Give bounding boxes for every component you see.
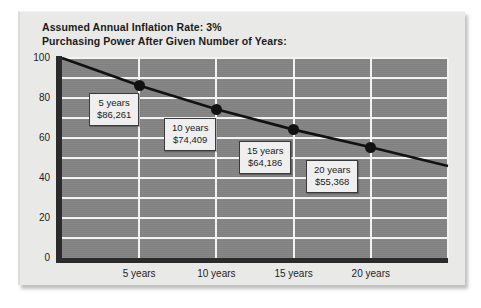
data-callout: 10 years$74,409 [164,118,216,151]
y-axis [56,56,62,260]
x-axis [56,258,448,263]
callout-amount-label: $55,368 [314,176,350,188]
y-axis-tick-label: 40 [6,173,50,183]
x-axis-tick-label: 15 years [254,268,334,279]
data-point-marker [211,104,222,115]
chart-title: Assumed Annual Inflation Rate: 3% [42,20,442,34]
chart-title-block: Assumed Annual Inflation Rate: 3% Purcha… [42,20,442,48]
x-axis-tick-label: 20 years [331,268,411,279]
callout-years-label: 5 years [97,97,131,109]
callout-years-label: 10 years [172,122,208,134]
callout-amount-label: $74,409 [172,134,208,146]
y-axis-tick-label: 60 [6,133,50,143]
chart-figure: Assumed Annual Inflation Rate: 3% Purcha… [0,0,481,308]
chart-subtitle: Purchasing Power After Given Number of Y… [42,34,442,48]
y-axis-tick-label: 0 [6,253,50,263]
y-axis-tick-label: 20 [6,213,50,223]
callout-amount-label: $64,186 [247,157,283,169]
x-axis-tick-label: 5 years [99,268,179,279]
data-point-marker [134,80,145,91]
y-axis-tick-label: 80 [6,93,50,103]
data-point-marker [365,142,376,153]
data-callout: 5 years$86,261 [89,93,139,126]
y-axis-tick-label: 100 [6,53,50,63]
data-callout: 20 years$55,368 [306,160,358,193]
callout-years-label: 20 years [314,164,350,176]
x-axis-tick-label: 10 years [176,268,256,279]
callout-years-label: 15 years [247,145,283,157]
callout-amount-label: $86,261 [97,109,131,121]
data-callout: 15 years$64,186 [239,141,291,174]
